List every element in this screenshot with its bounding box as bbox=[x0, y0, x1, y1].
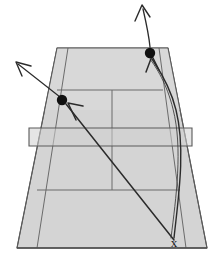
cross-court-landing-dot bbox=[57, 95, 67, 105]
court-diagram-svg: x bbox=[0, 0, 221, 254]
net-band bbox=[29, 128, 192, 146]
court-diagram-root: x bbox=[0, 0, 221, 254]
down-the-line-outbound-arrowhead bbox=[135, 5, 150, 21]
shot-origin-label: x bbox=[171, 235, 178, 250]
down-the-line-landing-dot bbox=[145, 48, 155, 58]
